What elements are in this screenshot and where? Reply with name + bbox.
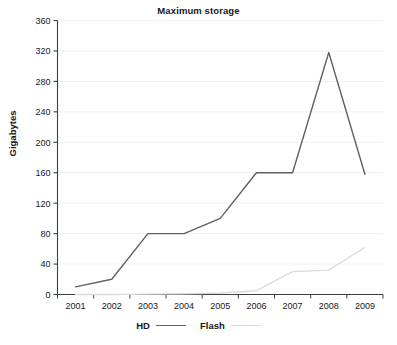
- svg-text:2003: 2003: [138, 301, 158, 311]
- legend-item-hd[interactable]: HD: [136, 320, 200, 331]
- legend-item-flash[interactable]: Flash: [200, 320, 261, 331]
- svg-text:240: 240: [35, 107, 50, 117]
- svg-text:2002: 2002: [102, 301, 122, 311]
- svg-text:40: 40: [40, 259, 50, 269]
- svg-text:320: 320: [35, 46, 50, 56]
- data-series: [76, 52, 365, 294]
- svg-text:160: 160: [35, 168, 50, 178]
- svg-text:200: 200: [35, 138, 50, 148]
- legend-label-hd: HD: [136, 320, 156, 331]
- line-chart-plot: 04080120160200240280320360 2001200220032…: [0, 0, 397, 345]
- y-tick-labels: 04080120160200240280320360: [35, 16, 50, 300]
- svg-text:2008: 2008: [319, 301, 339, 311]
- legend-label-flash: Flash: [200, 320, 231, 331]
- chart-page: Maximum storage Gigabytes 04080120160200…: [0, 0, 397, 345]
- svg-text:2005: 2005: [210, 301, 230, 311]
- svg-text:360: 360: [35, 16, 50, 26]
- svg-text:2004: 2004: [174, 301, 194, 311]
- gridlines: [58, 21, 384, 265]
- svg-text:0: 0: [45, 290, 50, 300]
- svg-text:2007: 2007: [283, 301, 303, 311]
- svg-text:2001: 2001: [66, 301, 86, 311]
- svg-text:80: 80: [40, 229, 50, 239]
- svg-text:280: 280: [35, 77, 50, 87]
- chart-legend: HD Flash: [0, 320, 397, 331]
- svg-text:120: 120: [35, 199, 50, 209]
- x-tick-labels: 200120022003200420052006200720082009: [66, 301, 375, 311]
- svg-text:2009: 2009: [355, 301, 375, 311]
- legend-swatch-flash-icon: [231, 325, 261, 326]
- legend-swatch-hd-icon: [156, 325, 186, 326]
- svg-text:2006: 2006: [246, 301, 266, 311]
- y-axis: [54, 21, 58, 295]
